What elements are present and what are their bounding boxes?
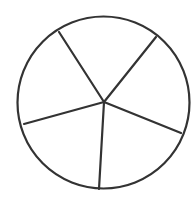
diagram-canvas — [0, 0, 195, 203]
divided-circle-diagram — [0, 0, 195, 203]
